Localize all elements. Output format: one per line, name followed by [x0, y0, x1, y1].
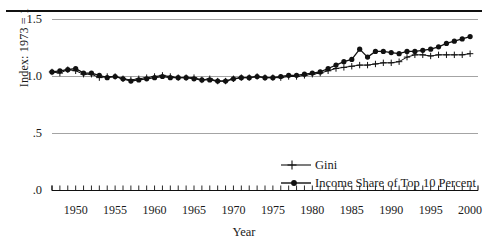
data-point	[388, 60, 394, 66]
data-point	[262, 75, 267, 80]
data-point	[428, 47, 433, 52]
data-point	[270, 75, 275, 80]
data-point	[89, 70, 94, 75]
data-point	[380, 60, 386, 66]
data-point	[357, 47, 362, 52]
figure-container: Index: 1973 = 1 Year 1.51.0.5.0 19501955…	[0, 0, 488, 250]
data-point	[404, 54, 410, 60]
data-point	[356, 62, 362, 68]
data-point	[435, 52, 441, 58]
data-point	[452, 39, 457, 44]
data-point	[333, 63, 338, 68]
data-point	[113, 74, 118, 79]
data-point	[255, 74, 260, 79]
data-point	[467, 51, 473, 57]
data-point	[97, 73, 102, 78]
legend-item-gini: Gini	[281, 156, 476, 174]
data-point	[373, 49, 378, 54]
data-point	[160, 74, 165, 79]
data-point	[365, 55, 370, 60]
data-point	[207, 77, 212, 82]
data-point	[223, 78, 228, 83]
data-point	[364, 62, 370, 68]
data-point	[427, 53, 433, 59]
data-point	[176, 75, 181, 80]
data-point	[49, 69, 54, 74]
data-point	[302, 72, 307, 77]
data-point	[404, 49, 409, 54]
data-point	[443, 52, 449, 58]
data-point	[105, 75, 110, 80]
chart-svg	[0, 0, 488, 250]
data-point	[239, 75, 244, 80]
data-point	[326, 66, 331, 71]
data-point	[444, 41, 449, 46]
data-point	[436, 44, 441, 49]
data-point	[215, 78, 220, 83]
data-point	[199, 77, 204, 82]
legend-label-income-share: Income Share of Top 10 Percent	[315, 174, 476, 192]
data-point	[65, 67, 70, 72]
data-point	[73, 66, 78, 71]
data-point	[341, 59, 346, 64]
data-point	[294, 73, 299, 78]
plot-area	[0, 0, 488, 250]
data-point	[247, 75, 252, 80]
data-point	[341, 64, 347, 70]
data-point	[349, 63, 355, 69]
data-point	[310, 70, 315, 75]
chart-legend: Gini Income Share of Top 10 Percent	[281, 156, 476, 192]
data-point	[136, 77, 141, 82]
legend-marker-circle	[281, 176, 311, 190]
data-point	[231, 76, 236, 81]
data-point	[318, 69, 323, 74]
data-point	[278, 74, 283, 79]
data-point	[396, 58, 402, 64]
data-point	[128, 78, 133, 83]
data-point	[144, 76, 149, 81]
data-point	[168, 75, 173, 80]
data-point	[420, 48, 425, 53]
data-point	[381, 49, 386, 54]
data-point	[349, 57, 354, 62]
legend-marker-plus	[281, 158, 311, 172]
data-point	[389, 50, 394, 55]
data-point	[372, 61, 378, 67]
data-point	[460, 36, 465, 41]
data-point	[397, 51, 402, 56]
data-point	[412, 49, 417, 54]
data-point	[468, 34, 473, 39]
data-point	[191, 76, 196, 81]
legend-label-gini: Gini	[315, 156, 337, 174]
data-point	[459, 52, 465, 58]
data-point	[286, 73, 291, 78]
data-point	[57, 68, 62, 73]
data-point	[451, 52, 457, 58]
data-point	[81, 70, 86, 75]
data-point	[152, 75, 157, 80]
legend-item-income-share: Income Share of Top 10 Percent	[281, 174, 476, 192]
data-point	[120, 76, 125, 81]
data-point	[184, 75, 189, 80]
